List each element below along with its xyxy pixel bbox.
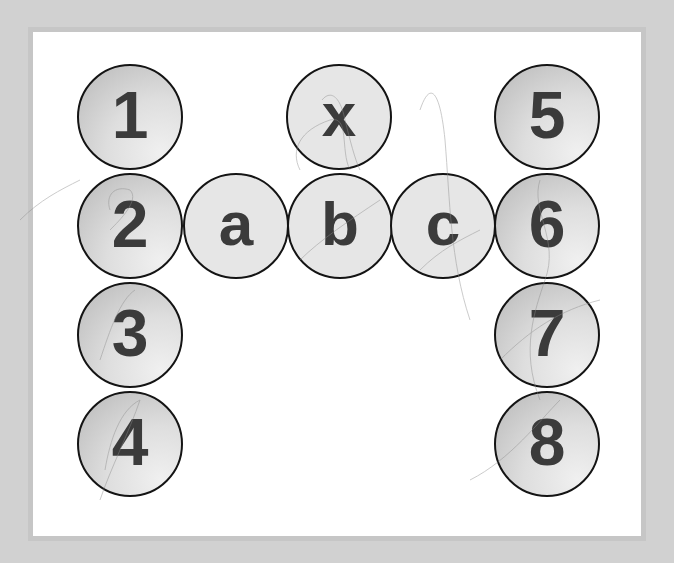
tile-3[interactable]: 3 xyxy=(77,282,183,388)
tile-x[interactable]: x xyxy=(286,64,392,170)
tile-label: 5 xyxy=(529,82,566,148)
tile-label: b xyxy=(321,193,359,255)
tile-8[interactable]: 8 xyxy=(494,391,600,497)
tile-label: x xyxy=(322,84,356,146)
tile-label: 1 xyxy=(112,82,149,148)
tile-label: 6 xyxy=(529,191,566,257)
tile-label: 4 xyxy=(112,409,149,475)
tile-4[interactable]: 4 xyxy=(77,391,183,497)
tile-7[interactable]: 7 xyxy=(494,282,600,388)
tile-a[interactable]: a xyxy=(183,173,289,279)
tile-label: a xyxy=(219,193,253,255)
tile-label: 8 xyxy=(529,409,566,475)
tile-label: 2 xyxy=(112,191,149,257)
tile-1[interactable]: 1 xyxy=(77,64,183,170)
tile-label: c xyxy=(426,193,460,255)
tile-6[interactable]: 6 xyxy=(494,173,600,279)
tile-label: 7 xyxy=(529,300,566,366)
tile-5[interactable]: 5 xyxy=(494,64,600,170)
tile-b[interactable]: b xyxy=(287,173,393,279)
tile-label: 3 xyxy=(112,300,149,366)
tile-2[interactable]: 2 xyxy=(77,173,183,279)
tile-c[interactable]: c xyxy=(390,173,496,279)
